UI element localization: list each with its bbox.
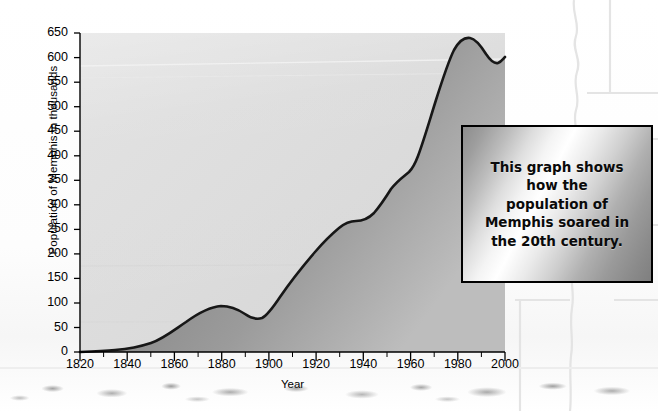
y-tick-label: 50 [22,320,68,334]
y-tick-label: 150 [22,270,68,284]
y-axis-ticks [74,33,80,352]
y-tick-label: 100 [22,295,68,309]
y-tick-label: 550 [22,74,68,88]
y-tick-label: 200 [22,246,68,260]
y-axis-title: Population of Memphis in thousands [47,10,59,310]
bottom-texture-band [0,352,658,411]
callout-line: This graph shows [485,158,629,176]
annotation-callout: This graph shows how the population of M… [461,125,653,283]
y-tick-label: 350 [22,172,68,186]
chart-figure: 0 50 100 150 200 250 300 350 400 450 500… [0,0,658,411]
y-tick-label: 500 [22,99,68,113]
y-tick-label: 250 [22,221,68,235]
callout-line: the 20th century. [485,232,629,250]
callout-line: Memphis soared in [485,213,629,231]
annotation-callout-text: This graph shows how the population of M… [479,158,635,250]
y-tick-label: 450 [22,123,68,137]
y-tick-label: 650 [22,25,68,39]
y-tick-label: 300 [22,197,68,211]
callout-line: population of [485,195,629,213]
y-tick-label: 600 [22,50,68,64]
y-tick-label: 400 [22,148,68,162]
callout-line: how the [485,176,629,194]
